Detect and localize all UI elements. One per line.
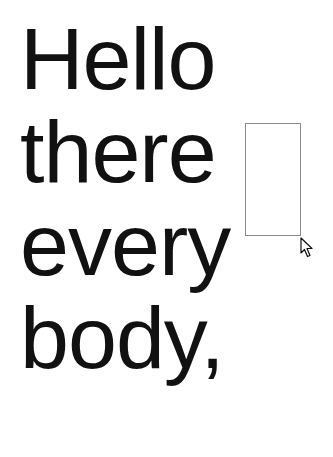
text-line-2: there [20, 105, 230, 198]
text-input-box[interactable] [245, 123, 301, 236]
text-line-1: Hello [20, 12, 230, 105]
text-line-4: body, [20, 291, 230, 384]
text-block: Hello there every body, [20, 12, 230, 384]
text-line-3: every [20, 198, 230, 291]
mouse-pointer-icon [300, 237, 314, 259]
